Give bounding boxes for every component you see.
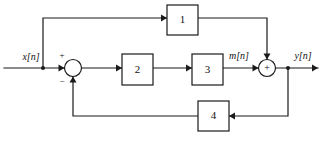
signal-y-label: y[n] bbox=[293, 50, 311, 61]
summer-output-plus-label: + bbox=[264, 62, 270, 73]
arrow-into-output-summer-top-icon bbox=[264, 54, 271, 60]
summer-output[interactable]: + bbox=[259, 60, 276, 77]
block-2[interactable]: 2 bbox=[122, 54, 153, 85]
sign-plus-input-label: + bbox=[59, 50, 64, 60]
arrow-into-block4-icon bbox=[229, 113, 235, 120]
block-4[interactable]: 4 bbox=[198, 101, 229, 131]
block-4-label: 4 bbox=[211, 109, 217, 121]
junction-output-branch-dot bbox=[286, 66, 290, 70]
summer-input[interactable] bbox=[65, 60, 82, 77]
arrow-output-icon bbox=[312, 65, 318, 72]
arrow-into-block2-icon bbox=[116, 65, 122, 72]
arrow-into-block3-icon bbox=[186, 65, 192, 72]
signal-m-label: m[n] bbox=[229, 50, 249, 61]
arrow-into-input-summer-icon bbox=[59, 65, 65, 72]
arrow-into-input-summer-bottom-icon bbox=[70, 77, 77, 83]
block-1-label: 1 bbox=[180, 13, 186, 25]
block-3[interactable]: 3 bbox=[192, 54, 223, 85]
signal-x-label: x[n] bbox=[21, 51, 39, 62]
junction-input-branch-dot bbox=[41, 66, 45, 70]
block-3-label: 3 bbox=[205, 63, 211, 75]
wire-feedback-down bbox=[229, 68, 288, 116]
block-diagram: + + − 1 2 3 4 x[n] m[n] y[n] bbox=[0, 0, 325, 143]
block-2-label: 2 bbox=[135, 63, 141, 75]
sign-minus-input-label: − bbox=[59, 76, 64, 86]
arrow-into-output-summer-icon bbox=[253, 65, 259, 72]
block-1[interactable]: 1 bbox=[167, 5, 198, 35]
block-diagram-canvas: + + − 1 2 3 4 x[n] m[n] y[n] bbox=[0, 0, 325, 143]
summer-input-circle bbox=[65, 60, 82, 77]
arrow-into-block1-icon bbox=[161, 15, 167, 22]
